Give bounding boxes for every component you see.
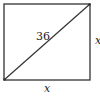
side-right-label: x: [95, 34, 100, 47]
diagonal-label: 36: [36, 30, 50, 43]
side-bottom-label: x: [44, 82, 51, 95]
vertex-dot-top-right: [88, 3, 90, 5]
square-diagram: 36 x x: [0, 0, 100, 96]
vertex-dot-bottom-left: [3, 78, 5, 80]
